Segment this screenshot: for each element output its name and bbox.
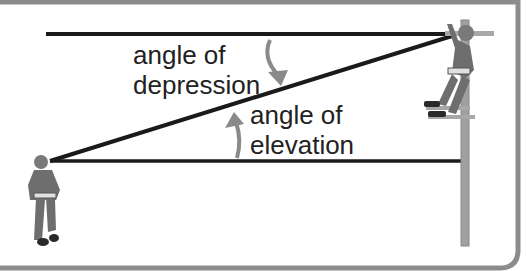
elevation-label-line1: angle of — [250, 100, 354, 130]
angle-of-elevation-label: angle of elevation — [250, 100, 354, 160]
angle-of-depression-label: angle of depression — [133, 40, 260, 100]
elevation-arc-arrow — [225, 112, 244, 158]
depression-label-line2: depression — [133, 70, 260, 100]
depression-arc-arrow — [267, 40, 288, 86]
depression-label-line1: angle of — [133, 40, 260, 70]
ground-observer-figure — [28, 155, 60, 246]
elevation-label-line2: elevation — [250, 130, 354, 160]
